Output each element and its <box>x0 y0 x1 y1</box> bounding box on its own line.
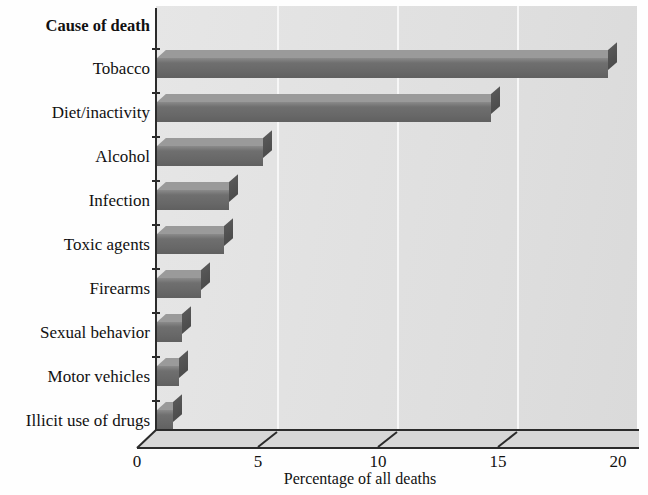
x-axis-title: Percentage of all deaths <box>0 470 648 488</box>
category-label-firearms: Firearms <box>0 279 150 299</box>
category-label-infection: Infection <box>0 191 150 211</box>
x-tick-label-10: 10 <box>358 452 398 472</box>
y-axis-labels: Cause of death Tobacco Diet/inactivity A… <box>0 0 648 495</box>
category-label-tobacco: Tobacco <box>0 59 150 79</box>
x-tick-label-5: 5 <box>238 452 278 472</box>
x-tick-label-15: 15 <box>478 452 518 472</box>
category-label-diet-inactivity: Diet/inactivity <box>0 103 150 123</box>
category-label-illicit-drugs: Illicit use of drugs <box>0 411 150 431</box>
bar-chart: Cause of death Tobacco Diet/inactivity A… <box>0 0 648 495</box>
category-label-toxic-agents: Toxic agents <box>0 235 150 255</box>
x-axis-title-text: Percentage of all deaths <box>212 470 436 487</box>
x-tick-label-20: 20 <box>598 452 638 472</box>
category-label-sexual-behavior: Sexual behavior <box>0 323 150 343</box>
category-label-alcohol: Alcohol <box>0 147 150 167</box>
category-label-motor-vehicles: Motor vehicles <box>0 367 150 387</box>
category-axis-header: Cause of death <box>0 16 150 36</box>
x-tick-label-0: 0 <box>117 452 157 472</box>
